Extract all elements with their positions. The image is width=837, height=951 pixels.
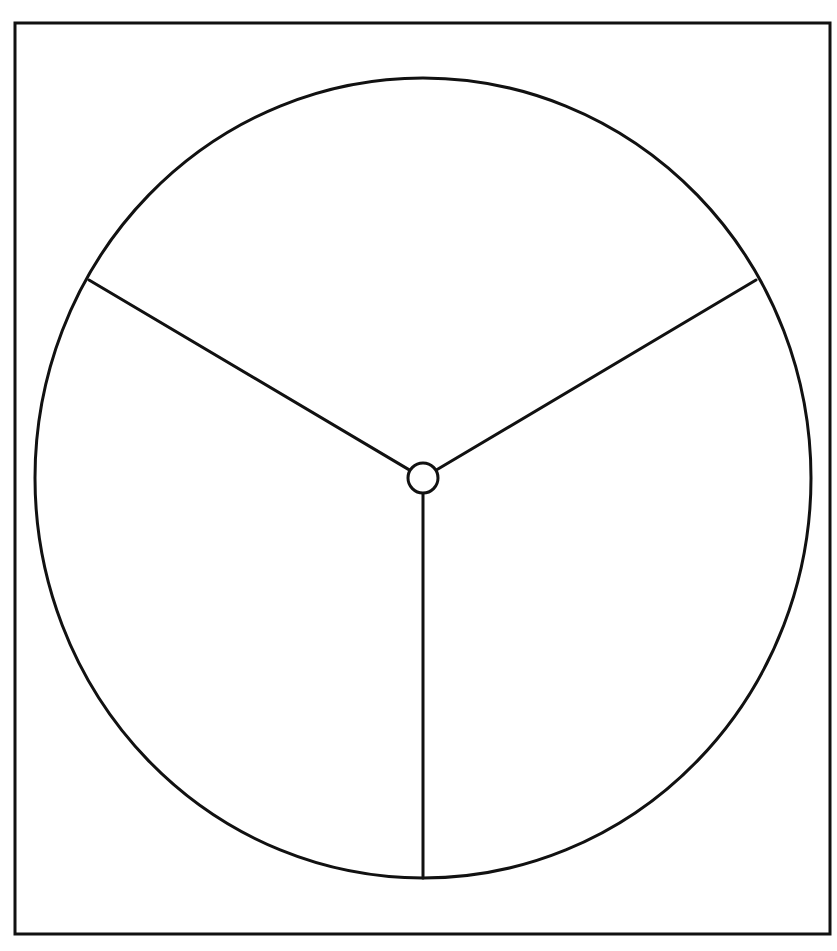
center-hub [408, 463, 438, 493]
diagram-canvas [0, 0, 837, 951]
three-section-circle-diagram [0, 0, 837, 951]
spoke-upper-left [89, 280, 410, 470]
spoke-upper-right [436, 280, 756, 470]
